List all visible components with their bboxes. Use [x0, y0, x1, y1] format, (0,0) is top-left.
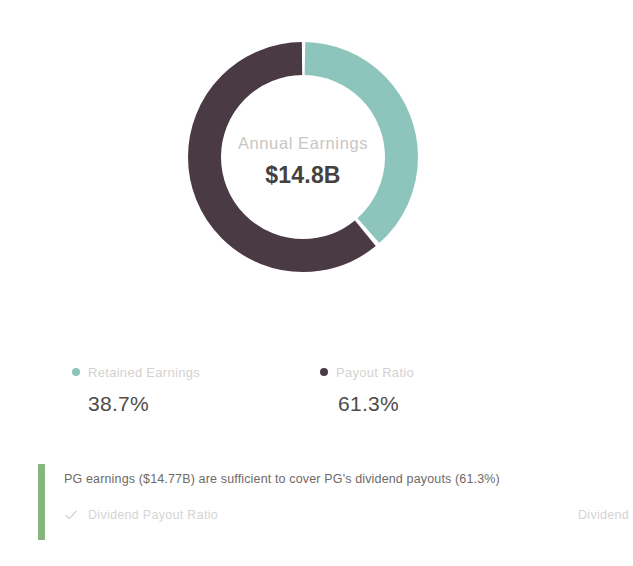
banner-metric-right-label: Dividend [578, 504, 633, 526]
legend-value-payout-ratio: 61.3% [338, 392, 414, 416]
legend-dot-icon-retained-earnings [72, 368, 80, 376]
legend-head-payout-ratio: Payout Ratio [320, 362, 414, 382]
legend-label-payout-ratio: Payout Ratio [336, 365, 414, 380]
legend-dot-icon-payout-ratio [320, 368, 328, 376]
legend-head-retained-earnings: Retained Earnings [72, 362, 200, 382]
check-icon [64, 508, 78, 522]
legend-item-payout-ratio[interactable]: Payout Ratio 61.3% [320, 362, 414, 416]
banner-accent-bar [38, 464, 45, 540]
donut-chart-svg [188, 42, 418, 272]
chart-legend: Retained Earnings 38.7% Payout Ratio 61.… [0, 362, 606, 432]
legend-label-retained-earnings: Retained Earnings [88, 365, 200, 380]
banner-body: PG earnings ($14.77B) are sufficient to … [64, 464, 606, 540]
donut-chart[interactable]: Annual Earnings $14.8B [188, 42, 418, 272]
legend-value-retained-earnings: 38.7% [88, 392, 200, 416]
banner-metric-row[interactable]: Dividend Payout Ratio Dividend [64, 504, 606, 526]
donut-chart-area: Annual Earnings $14.8B [0, 0, 606, 300]
banner-headline-text: PG earnings ($14.77B) are sufficient to … [64, 472, 500, 486]
dividend-coverage-banner: PG earnings ($14.77B) are sufficient to … [38, 464, 606, 540]
banner-metric-label: Dividend Payout Ratio [88, 508, 218, 522]
legend-item-retained-earnings[interactable]: Retained Earnings 38.7% [72, 362, 200, 416]
